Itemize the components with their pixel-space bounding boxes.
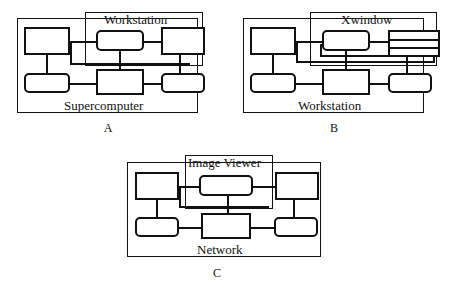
node-b-top-left[interactable] (250, 27, 296, 55)
figure-a-inner-label: Workstation (104, 13, 167, 26)
node-a-bottom-right[interactable] (161, 73, 205, 93)
figure-a-outer-label: Supercomputer (64, 99, 143, 112)
node-b-top-right-rule-2 (390, 47, 438, 49)
node-b-top-center[interactable] (322, 30, 370, 51)
node-c-top-right[interactable] (275, 172, 319, 200)
figure-a: Workstation Supercomputer A (0, 0, 226, 147)
link-c-bc-br (251, 227, 275, 229)
node-c-bottom-right[interactable] (274, 217, 318, 237)
figure-b-caption: B (324, 121, 344, 136)
link-a-rail-h (70, 63, 190, 65)
link-c-bl-bc (179, 227, 203, 229)
node-c-bottom-center[interactable] (201, 213, 251, 239)
link-b-tl-tc (296, 41, 322, 43)
link-a-tl-tc (70, 41, 98, 43)
figure-c: Image Viewer Network C (113, 148, 353, 294)
figure-c-caption: C (207, 266, 227, 281)
link-c-tc-tr (253, 186, 277, 188)
link-b-rail1-v (296, 41, 298, 63)
node-b-top-right-rule-1 (390, 39, 438, 41)
node-a-top-left[interactable] (24, 27, 70, 55)
node-a-top-center[interactable] (96, 30, 144, 51)
node-a-bottom-left[interactable] (24, 73, 70, 93)
node-c-top-center[interactable] (199, 175, 253, 196)
figure-b-outer-label: Workstation (298, 99, 361, 112)
node-b-bottom-center[interactable] (322, 69, 370, 95)
node-c-bottom-left[interactable] (135, 217, 179, 237)
node-c-top-left[interactable] (135, 172, 179, 200)
figure-b: Xwindow Workstation B (228, 0, 453, 147)
link-a-rail-v (70, 41, 72, 65)
node-b-top-right[interactable] (388, 30, 440, 57)
link-c-rail-v (179, 186, 181, 208)
link-b-bl-bc (296, 83, 322, 85)
link-a-bl-bc (70, 83, 98, 85)
node-b-bottom-right[interactable] (388, 73, 432, 93)
link-b-rail1-h (296, 61, 435, 63)
node-a-bottom-center[interactable] (96, 69, 144, 95)
figure-b-inner-label: Xwindow (341, 13, 392, 26)
figure-c-outer-label: Network (197, 243, 243, 256)
figure-c-inner-label: Image Viewer (188, 156, 261, 169)
link-a-bc-br (142, 83, 163, 85)
link-c-tl-tc (179, 186, 199, 188)
link-c-rail-h (179, 206, 269, 208)
node-a-top-right[interactable] (161, 27, 205, 55)
figure-a-caption: A (98, 121, 118, 136)
node-b-bottom-left[interactable] (250, 73, 296, 93)
